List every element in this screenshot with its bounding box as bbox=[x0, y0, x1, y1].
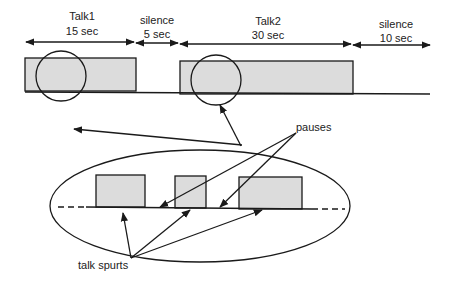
segment-silence1-duration: 5 sec bbox=[144, 28, 171, 40]
talk-spurt-block-1 bbox=[96, 175, 145, 207]
talk-spurt-arrow-1 bbox=[123, 213, 131, 258]
zoom-arrow-to-talk2 bbox=[220, 105, 241, 146]
talk-spurts-label: talk spurts bbox=[78, 259, 129, 271]
segment-talk1-duration: 15 sec bbox=[66, 25, 99, 37]
segment-silence2-duration: 10 sec bbox=[380, 32, 413, 44]
segment-talk2-name: Talk2 bbox=[255, 15, 281, 27]
talk2-block bbox=[180, 61, 353, 94]
pauses-label: pauses bbox=[296, 121, 332, 133]
talk1-block bbox=[25, 58, 136, 91]
talk-spurt-block-3 bbox=[239, 177, 302, 209]
talk-spurt-block-2 bbox=[175, 176, 206, 208]
duration-arrows bbox=[26, 42, 430, 45]
talk-silence-diagram: Talk1 15 sec silence 5 sec Talk2 30 sec … bbox=[0, 0, 454, 285]
talk-spurt-arrow-2 bbox=[131, 210, 190, 258]
zoom-arrow-to-talk1 bbox=[74, 129, 242, 145]
segment-silence1-name: silence bbox=[140, 14, 174, 26]
segment-talk2-duration: 30 sec bbox=[252, 29, 285, 41]
talk-spurt-arrow-3 bbox=[131, 210, 262, 258]
segment-silence2-name: silence bbox=[379, 18, 413, 30]
segment-talk1-name: Talk1 bbox=[69, 10, 95, 22]
